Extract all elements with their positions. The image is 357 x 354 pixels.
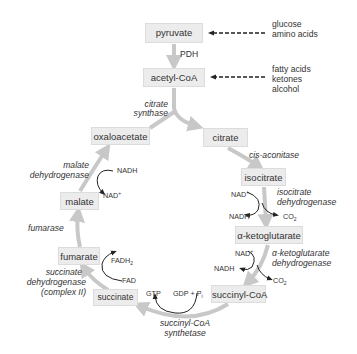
node-succinyl-coa: succinyl-CoA [211,285,266,303]
source-ketones: ketones [272,74,302,84]
enzyme-cis-aconitase: cis-aconitase [249,150,299,160]
node-a-ketoglutarate: α-ketoglutarate [235,226,303,244]
mdh-nad: NAD+ [103,189,121,200]
node-malate: malate [60,192,99,210]
enzyme-citrate-synthase-2: synthase [120,108,168,118]
enzyme-isocitrate-dh-2: dehydrogenase [277,197,336,207]
idh-nadh: NADH [229,213,249,221]
enzyme-sdh-3: (complex II) [10,287,86,297]
enzyme-fumarase: fumarase [28,223,64,233]
enzyme-akg-dh-1: α-ketoglutarate [272,248,329,258]
enzyme-scs-2: synthetase [145,328,225,338]
enzyme-sdh-1: succinate [20,267,82,277]
sdh-fadh2: FADH2 [111,257,133,267]
node-fumarate: fumarate [58,247,100,265]
enzyme-pdh: PDH [180,49,198,59]
sdh-fad: FAD [122,277,136,285]
enzyme-scs-1: succinyl-CoA [145,318,225,328]
arrow-acetyl-to-citrate [174,88,196,126]
source-alcohol: alcohol [272,84,299,94]
akg-nad: NAD+ [235,247,253,258]
idh-nad: NAD+ [231,188,249,199]
enzyme-sdh-2: dehydrogenase [10,277,86,287]
akg-co2: CO2 [273,277,287,287]
node-succinate: succinate [93,289,138,306]
node-oxaloacetate: oxaloacetate [91,127,150,145]
akg-nadh: NADH [214,265,234,273]
enzyme-mdh-1: malate [20,160,89,170]
scs-gtp: GTP [146,290,161,298]
source-glucose: glucose [272,19,302,29]
idh-co2: CO2 [283,213,297,223]
source-amino-acids: amino acids [272,29,318,39]
source-fatty-acids: fatty acids [272,64,311,74]
node-pyruvate: pyruvate [145,23,203,43]
node-citrate: citrate [203,128,248,147]
node-acetyl-coa: acetyl-CoA [143,68,205,87]
mdh-nadh: NADH [117,167,137,175]
node-isocitrate: isocitrate [241,168,286,186]
enzyme-akg-dh-2: dehydrogenase [272,258,331,268]
enzyme-isocitrate-dh-1: isocitrate [277,187,311,197]
enzyme-mdh-2: dehydrogenase [10,170,89,180]
scs-gdp-pi: GDP + Pi [173,290,203,300]
